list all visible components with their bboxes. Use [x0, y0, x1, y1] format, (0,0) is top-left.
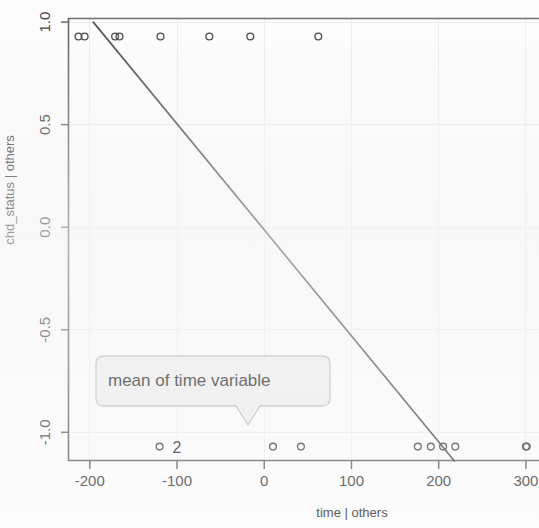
callout-balloon-shape: [96, 356, 330, 425]
chart-canvas: -1.0-0.50.00.51.0 -200-1000100200300 2 m…: [0, 0, 539, 528]
y-tick-label: 0.0: [37, 217, 54, 238]
data-point: [427, 443, 434, 450]
mean-of-time-callout: mean of time variable: [96, 356, 330, 425]
callout-label: mean of time variable: [108, 371, 271, 390]
data-point: [157, 33, 164, 40]
y-axis-title: chd_status | others: [2, 135, 17, 245]
x-tick-label: 200: [426, 472, 451, 489]
point-count-label: 2: [173, 439, 182, 456]
data-point: [452, 443, 459, 450]
y-axis-tick-labels: -1.0-0.50.00.51.0: [37, 12, 54, 446]
x-tick-label: -100: [162, 472, 192, 489]
y-tick-label: 0.5: [37, 114, 54, 135]
x-axis-title: time | others: [316, 505, 388, 520]
partial-regression-plot: -1.0-0.50.00.51.0 -200-1000100200300 2 m…: [0, 0, 539, 528]
x-axis-ticks: [90, 461, 526, 469]
x-tick-label: 0: [260, 472, 268, 489]
data-point: [315, 33, 322, 40]
x-tick-label: 100: [339, 472, 364, 489]
x-axis-tick-labels: -200-1000100200300: [75, 472, 539, 489]
data-point: [247, 33, 254, 40]
x-tick-label: 300: [513, 472, 538, 489]
data-point: [298, 443, 305, 450]
data-point: [270, 443, 277, 450]
data-point: [414, 443, 421, 450]
data-point: [156, 443, 163, 450]
y-axis-ticks: [61, 22, 68, 432]
y-tick-label: -0.5: [37, 317, 54, 343]
y-tick-label: -1.0: [37, 419, 54, 445]
data-point: [206, 33, 213, 40]
y-tick-label: 1.0: [37, 12, 54, 33]
x-tick-label: -200: [75, 472, 105, 489]
data-point: [116, 33, 123, 40]
